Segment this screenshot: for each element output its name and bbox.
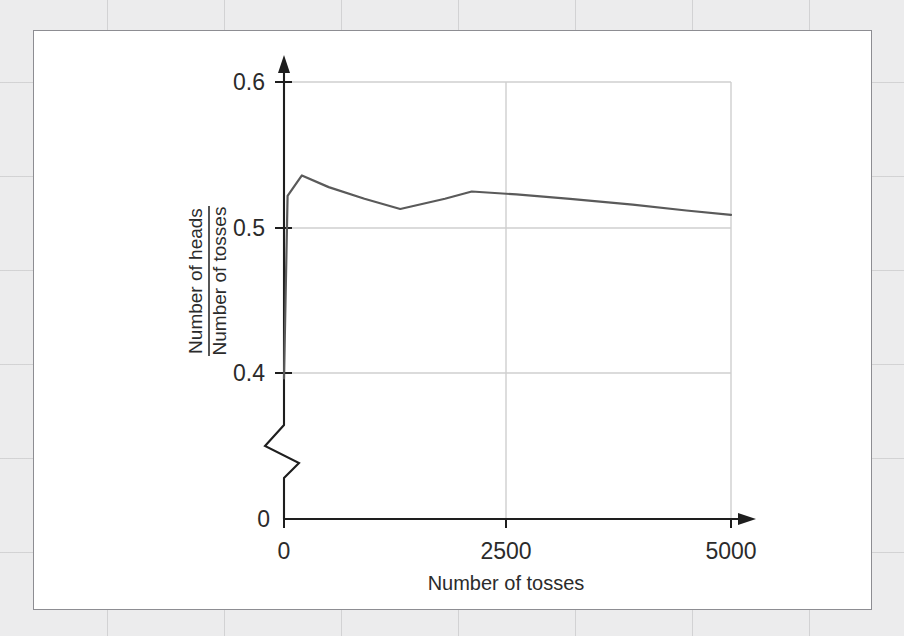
y-tick-label-0: 0 bbox=[257, 506, 270, 532]
y-axis-title-denominator: Number of tosses bbox=[209, 207, 230, 356]
x-tick-label-5000: 5000 bbox=[705, 538, 756, 564]
figure-panel: 0.6 0.5 0.4 0 0 2500 5000 Number of toss… bbox=[33, 30, 872, 610]
y-tick-label-0.6: 0.6 bbox=[233, 69, 265, 95]
x-tick-label-2500: 2500 bbox=[480, 538, 531, 564]
coin-toss-proportion-chart: 0.6 0.5 0.4 0 0 2500 5000 Number of toss… bbox=[34, 31, 873, 611]
y-axis bbox=[265, 55, 299, 519]
data-series-line bbox=[284, 175, 731, 378]
x-axis bbox=[284, 510, 756, 528]
y-tick-label-0.5: 0.5 bbox=[233, 215, 265, 241]
y-axis-title: Number of heads Number of tosses bbox=[185, 206, 230, 356]
y-axis-title-numerator: Number of heads bbox=[185, 208, 206, 354]
y-axis-arrowhead bbox=[278, 55, 290, 73]
y-axis-break-zigzag bbox=[265, 421, 299, 519]
x-axis-title: Number of tosses bbox=[428, 572, 585, 594]
gridlines bbox=[284, 82, 731, 519]
x-tick-label-0: 0 bbox=[278, 538, 291, 564]
x-axis-arrowhead bbox=[738, 513, 756, 525]
y-tick-label-0.4: 0.4 bbox=[233, 360, 265, 386]
